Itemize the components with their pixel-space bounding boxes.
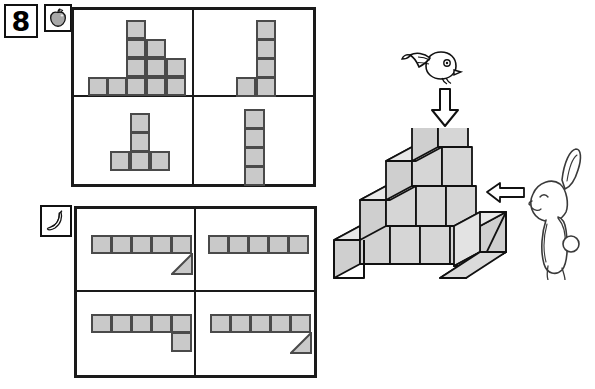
- cube: [107, 77, 127, 96]
- triangle-wedge: [171, 253, 194, 276]
- cube: [256, 20, 276, 40]
- option-b[interactable]: [194, 10, 314, 97]
- banana-icon: [44, 209, 68, 233]
- option-a[interactable]: [74, 10, 194, 97]
- option-c[interactable]: [74, 97, 194, 184]
- cube: [150, 151, 170, 171]
- cube: [250, 314, 271, 333]
- banana-panel[interactable]: [74, 206, 317, 378]
- cube: [244, 109, 265, 129]
- number-badge: 8: [4, 4, 38, 38]
- cube: [146, 58, 166, 77]
- cube: [151, 235, 172, 254]
- banana-badge: [40, 205, 72, 237]
- cube: [171, 332, 192, 352]
- cube: [290, 314, 311, 333]
- cube: [146, 39, 166, 58]
- apple-icon: [47, 7, 69, 29]
- cube: [236, 77, 256, 97]
- cube: [208, 235, 229, 254]
- rabbit-icon: [520, 140, 592, 280]
- option-h[interactable]: [196, 292, 315, 375]
- cube: [130, 151, 150, 171]
- cube: [270, 314, 291, 333]
- apple-panel[interactable]: [71, 7, 316, 187]
- cube: [126, 20, 146, 39]
- cube: [151, 314, 172, 333]
- cube: [244, 147, 265, 167]
- cube: [126, 39, 146, 58]
- cube: [171, 235, 192, 254]
- cube: [130, 132, 150, 152]
- cube: [88, 77, 108, 96]
- option-g[interactable]: [77, 292, 196, 375]
- cube: [166, 58, 186, 77]
- cube: [111, 314, 132, 333]
- cube: [91, 314, 112, 333]
- cube: [244, 128, 265, 148]
- cube: [166, 77, 186, 96]
- cube: [288, 235, 309, 254]
- cube: [131, 235, 152, 254]
- cube: [228, 235, 249, 254]
- cube: [210, 314, 231, 333]
- triangle-wedge: [290, 332, 313, 355]
- down-arrow-icon: [430, 88, 460, 128]
- cube: [244, 166, 265, 186]
- cube: [126, 58, 146, 77]
- cube: [256, 39, 276, 59]
- cube: [248, 235, 269, 254]
- option-d[interactable]: [194, 97, 314, 184]
- cube: [131, 314, 152, 333]
- cube: [171, 314, 192, 333]
- bird-icon: [400, 46, 464, 86]
- cube: [111, 235, 132, 254]
- page-number: 8: [12, 8, 31, 35]
- cube: [146, 77, 166, 96]
- isometric-staircase: [330, 128, 520, 318]
- option-f[interactable]: [196, 209, 315, 292]
- cube: [230, 314, 251, 333]
- option-e[interactable]: [77, 209, 196, 292]
- cube: [256, 77, 276, 97]
- apple-badge: [44, 4, 72, 32]
- cube: [91, 235, 112, 254]
- cube: [256, 58, 276, 78]
- cube: [110, 151, 130, 171]
- cube: [126, 77, 146, 96]
- cube: [268, 235, 289, 254]
- cube: [130, 113, 150, 133]
